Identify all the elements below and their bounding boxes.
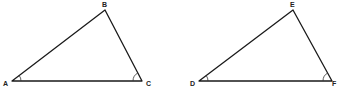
- angle-mark-f: [323, 73, 328, 81]
- angle-mark-d: [206, 76, 208, 82]
- triangle-abc: A B C: [3, 1, 151, 87]
- triangles-figure: A B C D E F: [0, 0, 337, 92]
- triangle-def: D E F: [190, 1, 337, 87]
- vertex-label-f: F: [332, 80, 337, 87]
- vertex-label-e: E: [290, 1, 295, 8]
- vertex-label-a: A: [3, 80, 8, 87]
- angle-mark-a: [19, 76, 21, 82]
- vertex-label-b: B: [102, 1, 107, 8]
- angle-mark-c: [133, 73, 138, 81]
- triangle-abc-outline: [12, 10, 142, 81]
- vertex-label-c: C: [146, 80, 151, 87]
- vertex-label-d: D: [190, 80, 195, 87]
- diagram-canvas: A B C D E F: [0, 0, 337, 92]
- triangle-def-outline: [199, 10, 332, 81]
